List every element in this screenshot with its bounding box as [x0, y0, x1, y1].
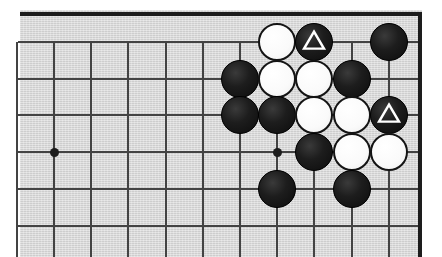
grid-line-vertical-2	[90, 42, 92, 257]
black-stone[interactable]	[295, 133, 333, 171]
black-stone-marked[interactable]	[295, 23, 333, 61]
black-stone[interactable]	[370, 23, 408, 61]
board-edge-right	[418, 12, 422, 257]
black-stone[interactable]	[221, 96, 259, 134]
grid-line-vertical-4	[165, 42, 167, 257]
white-stone[interactable]	[295, 60, 333, 98]
white-stone[interactable]	[295, 96, 333, 134]
triangle-mark-icon	[371, 97, 407, 133]
white-stone[interactable]	[333, 96, 371, 134]
grid-line-vertical-0	[16, 42, 18, 257]
star-point-center	[273, 148, 282, 157]
black-stone[interactable]	[333, 60, 371, 98]
black-stone-marked[interactable]	[370, 96, 408, 134]
go-board-surface	[20, 10, 422, 257]
black-stone[interactable]	[258, 96, 296, 134]
grid-line-vertical-3	[127, 42, 129, 257]
board-edge-top	[20, 12, 422, 16]
white-stone[interactable]	[258, 23, 296, 61]
black-stone[interactable]	[258, 170, 296, 208]
black-stone[interactable]	[333, 170, 371, 208]
go-diagram-figure: Go board position diagram Upper-right co…	[0, 0, 442, 257]
white-stone[interactable]	[370, 133, 408, 171]
grid-line-horizontal-5	[18, 225, 420, 227]
board-paper-grain	[20, 10, 422, 257]
white-stone[interactable]	[333, 133, 371, 171]
black-stone[interactable]	[221, 60, 259, 98]
star-point-left	[50, 148, 59, 157]
white-stone[interactable]	[258, 60, 296, 98]
grid-line-horizontal-0	[18, 41, 420, 43]
triangle-mark-icon	[296, 24, 332, 60]
grid-line-vertical-5	[202, 42, 204, 257]
